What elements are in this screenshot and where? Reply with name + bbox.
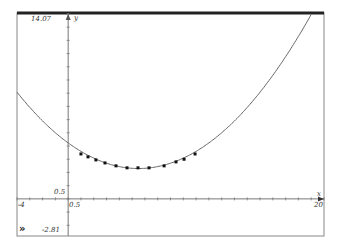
expand-icon[interactable]: » (19, 223, 25, 234)
plot-frame (17, 13, 324, 236)
y-max-label: 14.07 (31, 15, 51, 23)
data-point (175, 160, 178, 163)
data-point (194, 152, 197, 155)
data-point (148, 166, 151, 169)
data-point (104, 161, 107, 164)
y-min-label: -2.81 (42, 226, 60, 234)
x-axis-name: x (317, 190, 321, 198)
data-point (115, 164, 118, 167)
fitted-curve (17, 14, 311, 168)
y-axis-name: y (74, 14, 78, 22)
data-point (126, 166, 129, 169)
data-point (94, 158, 97, 161)
data-point (137, 166, 140, 169)
y-axis-arrow-icon (66, 14, 71, 20)
data-point (86, 155, 89, 158)
x-origin-label: 0.5 (69, 201, 80, 209)
x-max-label: 20 (314, 201, 323, 209)
graph-plot-area[interactable] (0, 0, 341, 249)
x-min-label: -4 (18, 201, 25, 209)
y-origin-label: 0.5 (54, 188, 65, 196)
data-point (163, 164, 166, 167)
data-point (79, 152, 82, 155)
data-point (183, 158, 186, 161)
